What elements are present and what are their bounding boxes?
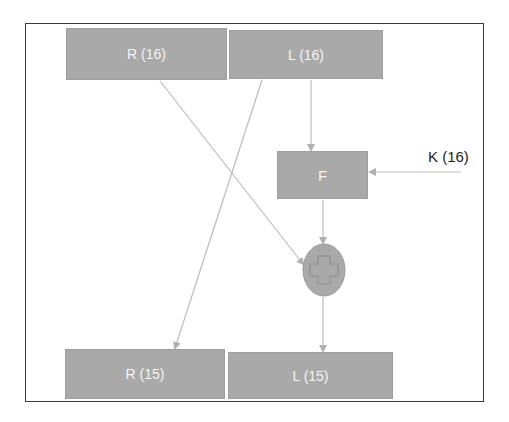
f-label: F bbox=[318, 167, 327, 184]
r-in-box: R (16) bbox=[66, 28, 227, 80]
f-function-box: F bbox=[277, 151, 368, 199]
r-out-label: R (15) bbox=[126, 366, 165, 382]
r-in-label: R (16) bbox=[127, 46, 166, 62]
l-out-box: L (15) bbox=[228, 352, 393, 399]
l-in-box: L (16) bbox=[229, 30, 383, 79]
key-label: K (16) bbox=[428, 148, 469, 165]
l-out-label: L (15) bbox=[292, 368, 328, 384]
xor-node bbox=[303, 244, 345, 296]
l-in-label: L (16) bbox=[288, 47, 324, 63]
r-out-box: R (15) bbox=[65, 349, 225, 399]
